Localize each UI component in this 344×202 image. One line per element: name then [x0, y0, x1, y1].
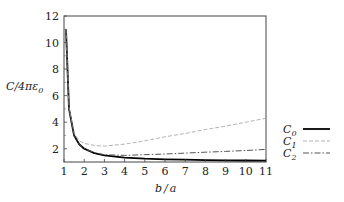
x-tick-label: 8: [202, 165, 209, 178]
y-tick-label: 10: [45, 37, 59, 50]
capacitance-chart: 1234567891011 24681012 C/4πε0 b/a C0C1C2: [0, 0, 344, 202]
x-tick-label: 11: [259, 165, 273, 178]
x-tick-label: 7: [182, 165, 189, 178]
curve-c2: [66, 29, 266, 155]
x-tick-label: 5: [141, 165, 148, 178]
x-tick-label: 2: [81, 165, 88, 178]
curve-c0: [66, 29, 266, 160]
y-tick-label: 12: [45, 10, 59, 23]
x-tick-label: 10: [239, 165, 253, 178]
x-axis-label: b/a: [155, 182, 176, 195]
x-tick-label: 4: [121, 165, 128, 178]
x-tick-label: 1: [61, 165, 68, 178]
x-tick-label: 3: [101, 165, 108, 178]
legend: C0C1C2: [283, 123, 330, 162]
plot-frame: [64, 16, 266, 162]
x-tick-label: 6: [162, 165, 169, 178]
y-tick-label: 4: [52, 116, 59, 129]
y-tick-label: 6: [52, 90, 59, 103]
y-tick-label: 8: [52, 63, 59, 76]
y-axis-label: C/4πε0: [6, 80, 43, 95]
x-tick-label: 9: [222, 165, 229, 178]
y-tick-label: 2: [52, 143, 59, 156]
plot-border: [64, 16, 266, 162]
plot-curves: [66, 29, 266, 160]
curve-c1: [66, 29, 266, 146]
